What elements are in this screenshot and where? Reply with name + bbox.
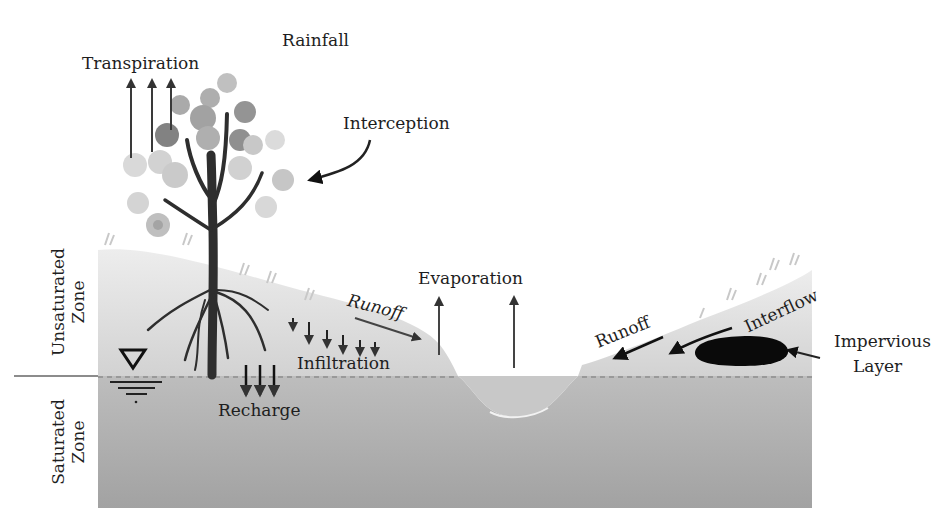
infiltration-label: Infiltration [297, 355, 390, 372]
saturated-zone-label-line1: Saturated [49, 387, 69, 497]
transpiration-label: Transpiration [82, 55, 199, 72]
hydrologic-cycle-diagram: Rainfall Transpiration Interception Evap… [0, 0, 938, 519]
unsaturated-zone-label-line1: Unsaturated [49, 242, 69, 362]
saturated-zone-label: Saturated Zone [49, 387, 93, 497]
impervious-layer-label-line1: Impervious [834, 333, 931, 350]
diagram-canvas [0, 0, 938, 519]
interception-label: Interception [343, 115, 450, 132]
unsaturated-zone-left [98, 249, 458, 376]
recharge-label: Recharge [218, 402, 301, 419]
saturated-zone-label-line2: Zone [69, 387, 89, 497]
unsaturated-zone-label: Unsaturated Zone [49, 242, 93, 362]
impervious-layer-label-line2: Layer [853, 358, 902, 375]
saturated-zone [98, 376, 812, 508]
interception-arrow [310, 140, 370, 180]
evaporation-arrows [439, 297, 514, 368]
rainfall-label: Rainfall [282, 32, 349, 49]
unsaturated-zone-label-line2: Zone [69, 242, 89, 362]
evaporation-label: Evaporation [418, 270, 523, 287]
